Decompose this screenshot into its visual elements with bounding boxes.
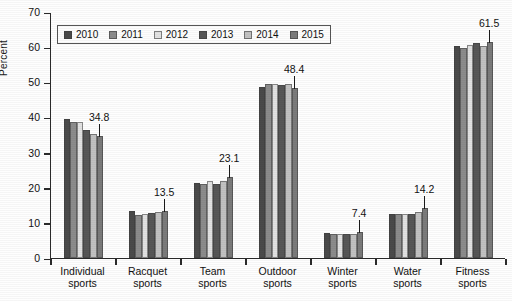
value-label: 23.1 bbox=[207, 152, 251, 164]
y-axis-tick: 50 bbox=[0, 83, 50, 84]
legend-item[interactable]: 2011 bbox=[109, 29, 143, 40]
legend-swatch-icon bbox=[199, 31, 207, 39]
annotation-leader-line bbox=[489, 30, 490, 43]
bar bbox=[415, 212, 422, 258]
bar bbox=[473, 43, 480, 258]
bar bbox=[278, 85, 285, 258]
y-tick-label: 0 bbox=[10, 252, 40, 264]
bar-group bbox=[389, 13, 429, 258]
x-axis-tick bbox=[180, 259, 182, 265]
category-label-line: Winter bbox=[310, 266, 375, 278]
bar bbox=[213, 184, 220, 259]
bar bbox=[83, 130, 90, 258]
bar bbox=[389, 214, 396, 258]
value-label: 48.4 bbox=[272, 63, 316, 75]
annotation-leader-line bbox=[359, 220, 360, 233]
legend-label: 2015 bbox=[302, 29, 324, 40]
legend-item[interactable]: 2010 bbox=[64, 29, 98, 40]
bar bbox=[272, 84, 279, 258]
bar bbox=[148, 213, 155, 258]
bar bbox=[162, 211, 169, 258]
bar bbox=[155, 212, 162, 258]
bar-group bbox=[259, 13, 299, 258]
category-label-line: sports bbox=[115, 278, 180, 290]
bar bbox=[357, 232, 364, 258]
y-axis-title: Percent bbox=[0, 0, 9, 118]
bar-group bbox=[64, 13, 104, 258]
x-axis-tick bbox=[115, 259, 117, 265]
bar bbox=[330, 234, 337, 258]
annotation-leader-line bbox=[424, 196, 425, 209]
bar bbox=[285, 84, 292, 258]
bar-group bbox=[324, 13, 364, 258]
legend: 201020112012201320142015 bbox=[57, 25, 331, 44]
plot-area bbox=[50, 13, 505, 259]
bar-group bbox=[129, 13, 169, 258]
x-axis-category-label: Teamsports bbox=[180, 266, 245, 289]
y-axis-tick: 60 bbox=[0, 48, 50, 49]
y-tick-label: 60 bbox=[10, 41, 40, 53]
y-tick-label: 30 bbox=[10, 147, 40, 159]
bar-group bbox=[194, 13, 234, 258]
value-label: 34.8 bbox=[77, 111, 121, 123]
bar bbox=[350, 234, 357, 258]
bar bbox=[129, 211, 136, 258]
x-axis-tick bbox=[50, 259, 52, 265]
value-label: 14.2 bbox=[402, 183, 446, 195]
y-tick-label: 10 bbox=[10, 217, 40, 229]
bar bbox=[97, 136, 104, 258]
bar bbox=[220, 181, 227, 258]
category-label-line: sports bbox=[50, 278, 115, 290]
category-label-line: Fitness bbox=[440, 266, 505, 278]
bar bbox=[265, 84, 272, 258]
x-axis-category-label: Watersports bbox=[375, 266, 440, 289]
bar bbox=[292, 88, 299, 258]
bar bbox=[487, 42, 494, 258]
legend-item[interactable]: 2015 bbox=[290, 29, 324, 40]
bar bbox=[227, 177, 234, 258]
category-label-line: sports bbox=[375, 278, 440, 290]
legend-label: 2011 bbox=[121, 29, 143, 40]
y-tick-label: 40 bbox=[10, 111, 40, 123]
annotation-leader-line bbox=[99, 124, 100, 137]
bar bbox=[90, 134, 97, 258]
value-label: 13.5 bbox=[142, 186, 186, 198]
legend-item[interactable]: 2014 bbox=[244, 29, 278, 40]
legend-swatch-icon bbox=[64, 31, 72, 39]
legend-swatch-icon bbox=[290, 31, 298, 39]
bar bbox=[395, 214, 402, 258]
bar bbox=[467, 45, 474, 258]
y-axis-tick: 0 bbox=[0, 259, 50, 260]
annotation-leader-line bbox=[294, 76, 295, 89]
y-axis-tick: 40 bbox=[0, 118, 50, 119]
category-label-line: Individual bbox=[50, 266, 115, 278]
bar bbox=[460, 48, 467, 258]
bar bbox=[408, 214, 415, 258]
legend-item[interactable]: 2012 bbox=[154, 29, 188, 40]
y-tick-label: 20 bbox=[10, 182, 40, 194]
x-axis-category-label: Individualsports bbox=[50, 266, 115, 289]
x-axis-category-label: Wintersports bbox=[310, 266, 375, 289]
bar bbox=[454, 46, 461, 258]
bar bbox=[142, 214, 149, 258]
bar bbox=[64, 119, 71, 258]
x-axis-tick bbox=[505, 259, 507, 265]
legend-label: 2013 bbox=[211, 29, 233, 40]
category-label-line: Racquet bbox=[115, 266, 180, 278]
category-label-line: sports bbox=[440, 278, 505, 290]
x-axis-tick bbox=[375, 259, 377, 265]
annotation-leader-line bbox=[164, 199, 165, 212]
bar bbox=[337, 234, 344, 258]
value-label: 7.4 bbox=[337, 207, 381, 219]
y-axis-tick: 30 bbox=[0, 154, 50, 155]
bar bbox=[324, 233, 331, 258]
y-axis-tick: 20 bbox=[0, 189, 50, 190]
category-label-line: Team bbox=[180, 266, 245, 278]
legend-item[interactable]: 2013 bbox=[199, 29, 233, 40]
annotation-leader-line bbox=[229, 165, 230, 178]
category-label-line: sports bbox=[180, 278, 245, 290]
x-axis-tick bbox=[440, 259, 442, 265]
x-axis-tick bbox=[245, 259, 247, 265]
legend-label: 2014 bbox=[256, 29, 278, 40]
y-axis-tick: 10 bbox=[0, 224, 50, 225]
